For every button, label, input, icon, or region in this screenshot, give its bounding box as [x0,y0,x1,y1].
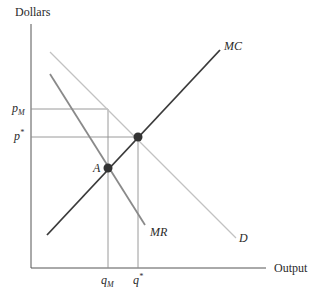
guide-p-m [31,109,108,268]
x-axis-label: Output [274,261,308,275]
marginal-revenue-curve [50,74,145,225]
p-m-label: pM [11,101,26,117]
q-star-label: q* [133,272,143,287]
y-axis-label: Dollars [15,5,51,19]
point-competitive-equilibrium [134,133,143,142]
monopoly-diagram: Dollars Output MC MR D A pM p* qM q* [0,0,309,295]
guide-p-star [31,137,138,268]
p-star-label: p* [13,128,24,143]
point-a-label: A [92,161,101,175]
q-m-label: qM [101,273,115,289]
mr-label: MR [149,225,168,239]
mc-label: MC [223,39,243,53]
d-label: D [238,231,248,245]
point-a [104,164,113,173]
demand-curve [50,52,236,238]
